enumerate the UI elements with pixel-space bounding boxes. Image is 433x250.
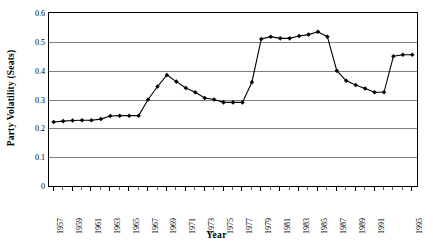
x-axis-tick (374, 187, 375, 191)
x-axis-tick (109, 187, 110, 191)
data-point-marker (410, 53, 415, 58)
y-axis-title-text: Party Volatility (Seats) (6, 50, 16, 147)
x-axis-tick (175, 187, 176, 190)
data-point-marker (250, 80, 255, 85)
data-point-marker (372, 90, 377, 95)
data-point-marker (127, 113, 132, 118)
data-point-marker (316, 29, 321, 34)
x-axis-tick (336, 187, 337, 191)
series-line (54, 32, 413, 122)
data-point-marker (353, 83, 358, 88)
x-axis-tick (392, 187, 393, 190)
x-axis-tick (232, 187, 233, 190)
y-axis-tick-label: 0.4 (35, 66, 45, 75)
x-axis-tick (402, 187, 403, 190)
y-axis-tick-labels: 00.10.20.30.40.50.6 (22, 12, 48, 187)
data-point-marker (268, 34, 273, 39)
x-axis-tick (185, 187, 186, 191)
data-point-marker (89, 118, 94, 123)
data-point-marker (118, 113, 123, 118)
y-axis-tick-label: 0.1 (35, 153, 45, 162)
x-axis-tick (260, 187, 261, 191)
x-axis-tick (223, 187, 224, 191)
x-axis-tick (204, 187, 205, 191)
plot-area (48, 12, 418, 187)
x-axis-tick (213, 187, 214, 190)
y-axis-tick-label: 0 (41, 182, 45, 191)
x-axis-tick (138, 187, 139, 190)
y-axis-tick-label: 0.3 (35, 95, 45, 104)
chart-line-series (49, 13, 417, 186)
x-axis-tick (147, 187, 148, 191)
x-axis-tick-labels: 1957195919611963196519671969197119731975… (48, 192, 418, 226)
data-point-marker (108, 114, 113, 119)
x-axis-tick (53, 187, 54, 191)
data-point-marker (401, 53, 406, 58)
x-axis-tick (194, 187, 195, 190)
x-axis-tick (279, 187, 280, 191)
x-axis-tick (81, 187, 82, 190)
x-axis-tick (119, 187, 120, 190)
data-point-marker (287, 36, 292, 41)
data-point-marker (325, 34, 330, 39)
data-point-marker (212, 97, 217, 102)
data-point-marker (61, 119, 66, 124)
x-axis-tick (307, 187, 308, 190)
y-axis-tick-label: 0.5 (35, 37, 45, 46)
x-axis-tick (317, 187, 318, 191)
x-axis-tick (270, 187, 271, 190)
x-axis-tick (72, 187, 73, 191)
x-axis-tick (355, 187, 356, 191)
data-point-marker (70, 118, 75, 123)
x-axis-title: Year (0, 230, 433, 240)
x-axis-tick (326, 187, 327, 190)
data-point-marker (136, 113, 141, 118)
x-axis-tick (364, 187, 365, 190)
data-point-marker (240, 100, 245, 105)
x-axis-tick (90, 187, 91, 191)
data-point-marker (259, 37, 264, 42)
y-axis-title: Party Volatility (Seats) (0, 0, 22, 196)
chart-page: Party Volatility (Seats) 00.10.20.30.40.… (0, 0, 433, 250)
x-axis-tick (100, 187, 101, 190)
y-axis-tick-label: 0.2 (35, 124, 45, 133)
data-point-marker (306, 32, 311, 37)
x-axis-tick (298, 187, 299, 191)
data-point-marker (391, 54, 396, 59)
x-axis-tick (157, 187, 158, 190)
x-axis-tick (62, 187, 63, 190)
data-point-marker (51, 120, 56, 125)
y-axis-tick-label: 0.6 (35, 9, 45, 18)
x-axis-tick (411, 187, 412, 191)
x-axis-tick (383, 187, 384, 190)
x-axis-tick (128, 187, 129, 191)
data-point-marker (80, 118, 85, 123)
data-point-marker (99, 117, 104, 122)
x-axis-tick (289, 187, 290, 190)
data-point-marker (382, 90, 387, 95)
data-point-marker (363, 86, 368, 91)
x-axis-tick (251, 187, 252, 190)
data-point-marker (278, 36, 283, 41)
data-point-marker (231, 100, 236, 105)
data-point-marker (297, 34, 302, 39)
data-point-marker (221, 100, 226, 105)
x-axis-tick (241, 187, 242, 191)
x-axis-tick (345, 187, 346, 190)
x-axis-tick (166, 187, 167, 191)
